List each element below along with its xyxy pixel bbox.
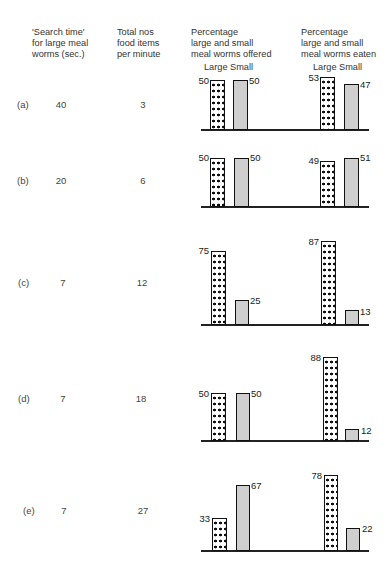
bar-offered-large — [211, 251, 226, 325]
row-label: (c) — [18, 277, 29, 288]
bar-offered-small — [235, 300, 249, 325]
header-line: for large meal — [32, 38, 88, 49]
header-line: meal worms eaten — [301, 49, 376, 60]
header-offered: Percentage large and small meal worms of… — [191, 27, 272, 60]
total-food-value: 6 — [128, 175, 158, 186]
bar-offered-large — [210, 158, 225, 207]
total-food-value: 18 — [126, 393, 156, 404]
label-offered-small: 67 — [251, 480, 262, 491]
bar-eaten-large — [323, 357, 338, 441]
header-line: large and small — [191, 38, 272, 49]
bar-offered-large — [212, 518, 227, 551]
label-offered-large: 50 — [189, 152, 209, 163]
label-offered-large: 33 — [190, 513, 210, 524]
bar-eaten-small — [345, 310, 359, 325]
bar-eaten-large — [324, 475, 338, 551]
bar-eaten-small — [345, 429, 359, 441]
bar-offered-large — [210, 80, 225, 130]
bar-eaten-small — [346, 528, 360, 551]
search-time-value: 7 — [48, 277, 78, 288]
row-label: (d) — [18, 393, 30, 404]
label-eaten-small: 12 — [361, 425, 372, 436]
label-offered-small: 50 — [250, 152, 261, 163]
header-eaten: Percentage large and small meal worms ea… — [301, 27, 376, 60]
bar-offered-small — [234, 158, 249, 207]
baseline — [201, 440, 369, 442]
label-eaten-large: 53 — [299, 72, 319, 83]
eaten-legend: Large Small — [313, 62, 362, 72]
baseline — [201, 324, 369, 326]
label-eaten-large: 49 — [299, 155, 319, 166]
bar-eaten-small — [344, 84, 359, 130]
header-search-time: 'Search time' for large meal worms (sec.… — [32, 27, 88, 60]
label-eaten-large: 87 — [299, 236, 319, 247]
bar-offered-small — [236, 485, 250, 551]
bar-offered-small — [233, 80, 248, 130]
total-food-value: 27 — [128, 505, 158, 516]
header-line: Percentage — [301, 27, 376, 38]
header-line: large and small — [301, 38, 376, 49]
search-time-value: 7 — [48, 393, 78, 404]
bar-eaten-large — [321, 241, 336, 325]
label-offered-large: 50 — [189, 388, 209, 399]
header-line: food items — [117, 38, 160, 49]
header-line: per minute — [117, 49, 160, 60]
label-offered-small: 50 — [251, 388, 262, 399]
label-eaten-large: 88 — [301, 352, 321, 363]
bar-offered-large — [211, 393, 226, 441]
header-line: Percentage — [191, 27, 272, 38]
bar-eaten-small — [344, 158, 359, 207]
label-eaten-small: 51 — [360, 152, 371, 163]
label-eaten-large: 78 — [302, 470, 322, 481]
header-total-food: Total nos food items per minute — [117, 27, 160, 60]
total-food-value: 3 — [128, 99, 158, 110]
label-eaten-small: 13 — [360, 306, 371, 317]
row-label: (a) — [17, 99, 29, 110]
search-time-value: 40 — [46, 99, 76, 110]
row-label: (e) — [23, 505, 35, 516]
label-eaten-small: 47 — [360, 79, 371, 90]
row-label: (b) — [17, 175, 29, 186]
header-line: 'Search time' — [32, 27, 88, 38]
label-offered-large: 50 — [189, 75, 209, 86]
offered-legend: Large Small — [204, 62, 253, 72]
bar-eaten-large — [320, 161, 335, 207]
label-eaten-small: 22 — [362, 523, 373, 534]
bar-eaten-large — [320, 77, 335, 130]
header-line: meal worms offered — [191, 49, 272, 60]
header-line: Total nos — [117, 27, 160, 38]
total-food-value: 12 — [127, 277, 157, 288]
search-time-value: 7 — [49, 505, 79, 516]
label-offered-large: 75 — [189, 245, 209, 256]
bar-offered-small — [236, 393, 250, 441]
search-time-value: 20 — [46, 175, 76, 186]
label-offered-small: 50 — [249, 75, 260, 86]
header-line: worms (sec.) — [32, 49, 88, 60]
label-offered-small: 25 — [250, 295, 261, 306]
